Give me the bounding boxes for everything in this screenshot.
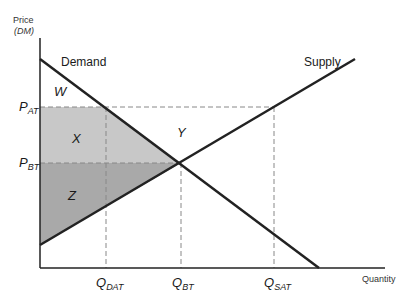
q-sat-tick-label: QSAT	[264, 276, 291, 292]
p-at-tick-label: PAT	[19, 100, 39, 116]
supply-label: Supply	[304, 56, 341, 68]
x-axis-title: Quantity	[362, 275, 396, 284]
y-axis-unit: (DM)	[14, 27, 34, 36]
q-dat-tick-label: QDAT	[96, 276, 123, 292]
area-w-label: W	[54, 85, 66, 98]
area-x-shading	[40, 107, 181, 163]
area-x-label: X	[72, 132, 81, 145]
p-bt-tick-label: PBT	[19, 156, 39, 172]
demand-label: Demand	[61, 56, 106, 68]
q-bt-tick-label: QBT	[172, 276, 194, 292]
diagram-canvas	[0, 0, 409, 303]
area-z-label: Z	[68, 189, 76, 202]
y-axis-title: Price	[13, 16, 34, 25]
area-y-label: Y	[177, 126, 186, 139]
